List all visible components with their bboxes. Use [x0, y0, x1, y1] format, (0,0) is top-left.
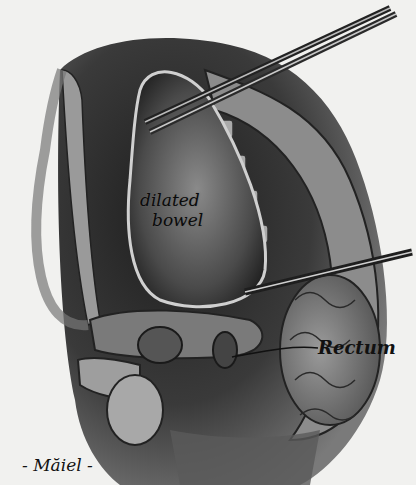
label-bowel: bowel — [140, 210, 203, 230]
rectum-organ — [213, 332, 237, 368]
artist-signature: - Măiel - — [22, 455, 93, 475]
bladder — [138, 327, 182, 363]
anatomical-illustration — [0, 0, 416, 485]
illustration-frame: dilated bowel Rectum - Măiel - — [0, 0, 416, 485]
scrotum — [107, 375, 163, 445]
label-rectum: Rectum — [318, 337, 396, 358]
thigh-shadow — [170, 430, 320, 485]
label-dilated-bowel: dilated bowel — [140, 190, 203, 230]
label-dilated: dilated — [140, 190, 203, 210]
